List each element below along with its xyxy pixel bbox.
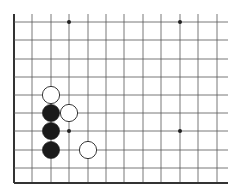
white-stone[interactable] bbox=[60, 104, 77, 121]
black-stone[interactable] bbox=[42, 122, 59, 139]
white-stone[interactable] bbox=[42, 86, 59, 103]
white-stone[interactable] bbox=[79, 141, 96, 158]
stones-layer bbox=[42, 86, 96, 158]
star-points bbox=[67, 20, 182, 133]
go-board[interactable] bbox=[0, 0, 247, 194]
black-stone[interactable] bbox=[42, 104, 59, 121]
black-stone[interactable] bbox=[42, 141, 59, 158]
star-point-icon bbox=[178, 20, 182, 24]
star-point-icon bbox=[67, 20, 71, 24]
star-point-icon bbox=[67, 129, 71, 133]
star-point-icon bbox=[178, 129, 182, 133]
